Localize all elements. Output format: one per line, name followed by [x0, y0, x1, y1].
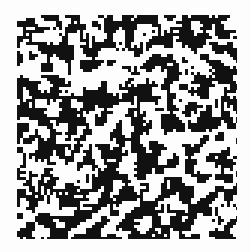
- noise-pattern: [17, 15, 237, 239]
